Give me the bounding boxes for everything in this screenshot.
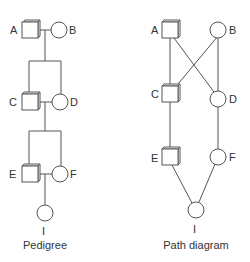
label-e: E bbox=[151, 152, 158, 164]
label-b: B bbox=[69, 24, 76, 36]
offspring-node-i bbox=[37, 205, 53, 221]
female-node-f bbox=[210, 149, 226, 165]
label-f: F bbox=[229, 151, 236, 163]
pedigree-diagram: A B C D E F I Pedigree bbox=[9, 20, 78, 251]
label-f: F bbox=[70, 168, 77, 180]
male-node-a bbox=[22, 20, 40, 38]
figure: A B C D E F I Pedigree bbox=[0, 0, 250, 262]
female-node-b bbox=[210, 22, 226, 38]
path-diagram-caption: Path diagram bbox=[163, 239, 228, 251]
male-node-a bbox=[162, 20, 180, 38]
path-edge-f-i bbox=[199, 164, 215, 202]
male-node-e bbox=[22, 164, 40, 182]
label-a: A bbox=[151, 24, 159, 36]
label-e: E bbox=[9, 168, 16, 180]
path-edge-b-c bbox=[178, 36, 218, 84]
female-node-d bbox=[210, 91, 226, 107]
label-a: A bbox=[10, 24, 18, 36]
pedigree-caption: Pedigree bbox=[23, 239, 67, 251]
label-i: I bbox=[193, 223, 196, 235]
female-node-f bbox=[52, 166, 68, 182]
offspring-node-i bbox=[188, 202, 204, 218]
male-node-c bbox=[22, 92, 40, 110]
label-d: D bbox=[229, 93, 237, 105]
label-i: I bbox=[42, 225, 45, 237]
path-edge-e-i bbox=[172, 165, 192, 203]
path-diagram: A B C D E F I Path diagram bbox=[151, 20, 237, 251]
male-node-e bbox=[162, 147, 180, 165]
female-node-d bbox=[52, 94, 68, 110]
female-node-b bbox=[51, 22, 67, 38]
label-c: C bbox=[151, 88, 159, 100]
label-c: C bbox=[9, 96, 17, 108]
label-d: D bbox=[70, 96, 78, 108]
label-b: B bbox=[229, 24, 236, 36]
male-node-c bbox=[162, 84, 180, 102]
